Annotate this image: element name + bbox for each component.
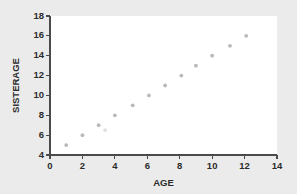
y-tick-label: 10 <box>33 89 44 100</box>
x-tick-label: 8 <box>177 160 182 171</box>
x-tick-label: 14 <box>272 160 283 171</box>
y-tick-label: 16 <box>33 29 44 40</box>
x-tick-label: 12 <box>239 160 250 171</box>
chart-canvas: 4681012141618 02468101214 AGE SISTERAGE <box>0 0 297 194</box>
data-point <box>81 133 85 137</box>
y-axis: 4681012141618 <box>33 10 50 160</box>
y-axis-title: SISTERAGE <box>10 58 21 113</box>
data-point <box>113 113 117 117</box>
data-point <box>97 123 101 127</box>
x-tick-label: 2 <box>80 160 85 171</box>
x-axis-title: AGE <box>153 177 174 188</box>
scatter-chart: 4681012141618 02468101214 AGE SISTERAGE <box>0 0 297 194</box>
data-point <box>131 103 135 107</box>
data-point <box>163 84 167 88</box>
data-point <box>210 54 214 58</box>
data-point <box>244 34 248 38</box>
data-point <box>179 74 183 78</box>
y-tick-label: 8 <box>39 109 44 120</box>
data-point <box>228 44 232 48</box>
x-tick-label: 10 <box>207 160 218 171</box>
y-tick-label: 12 <box>33 69 44 80</box>
x-tick-labels: 02468101214 <box>47 160 283 171</box>
y-tick-label: 14 <box>33 49 44 60</box>
data-point <box>194 64 198 68</box>
y-tick-label: 18 <box>33 10 44 21</box>
data-point <box>147 94 151 98</box>
x-tick-label: 4 <box>112 160 118 171</box>
data-point <box>103 128 107 132</box>
x-tick-label: 6 <box>145 160 150 171</box>
data-points-group <box>64 34 248 147</box>
data-point <box>64 143 68 147</box>
y-tick-label: 6 <box>39 129 44 140</box>
y-tick-label: 4 <box>39 149 45 160</box>
y-tick-labels: 4681012141618 <box>33 10 44 160</box>
x-tick-label: 0 <box>47 160 52 171</box>
x-axis: 02468101214 <box>47 155 283 171</box>
